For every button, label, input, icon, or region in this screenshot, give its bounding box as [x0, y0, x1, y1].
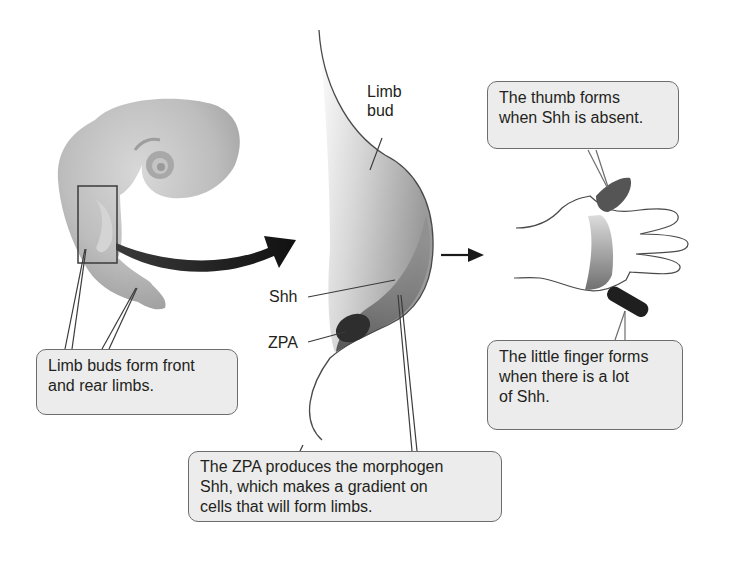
callout-zpa-line-3: cells that will form limbs.: [200, 497, 490, 517]
label-zpa: ZPA: [268, 333, 298, 352]
thumb-dark: [596, 178, 631, 212]
callout-zpa-line-1: The ZPA produces the morphogen: [200, 457, 490, 477]
little-finger-dark: [605, 284, 651, 319]
big-curved-arrow: [116, 236, 296, 272]
hand-illustration: [514, 150, 688, 340]
callout-limb-buds-line-1: Limb buds form front: [48, 356, 226, 376]
small-right-arrow: [441, 248, 484, 262]
callout-thumb-line-1: The thumb forms: [499, 88, 667, 108]
callout-little-finger-line-2: when there is a lot: [499, 367, 671, 387]
callout-thumb-line-2: when Shh is absent.: [499, 108, 667, 128]
label-limb-bud-line-1: Limb: [367, 82, 402, 101]
callout-little-finger-line-1: The little finger forms: [499, 347, 671, 367]
label-limb-bud: Limb bud: [367, 82, 402, 120]
label-limb-bud-line-2: bud: [367, 101, 402, 120]
callout-zpa-line-2: Shh, which makes a gradient on: [200, 477, 490, 497]
callout-limb-buds-line-2: and rear limbs.: [48, 376, 226, 396]
label-shh: Shh: [269, 287, 297, 306]
callout-little-finger-line-3: of Shh.: [499, 387, 671, 407]
callout-limb-buds: Limb buds form front and rear limbs.: [36, 349, 238, 415]
callout-zpa-produces: The ZPA produces the morphogen Shh, whic…: [188, 451, 502, 522]
callout-little-finger: The little finger forms when there is a …: [487, 340, 683, 430]
embryo-illustration: [58, 99, 240, 310]
callout-thumb: The thumb forms when Shh is absent.: [487, 81, 679, 149]
